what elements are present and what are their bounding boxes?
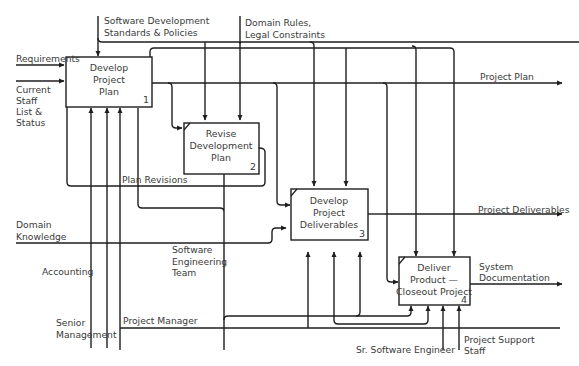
svg-text:Standards & Policies: Standards & Policies <box>104 27 198 38</box>
svg-text:Deliver: Deliver <box>417 262 451 273</box>
svg-text:Revise: Revise <box>206 128 237 139</box>
svg-text:4: 4 <box>461 294 467 305</box>
label-project-support-staff: Project Support Staff <box>464 334 535 356</box>
label-standards: Software Development Standards & Policie… <box>104 15 210 38</box>
output-project-plan-arrow <box>152 83 562 282</box>
label-current-staff: Current Staff List & Status <box>16 84 51 128</box>
svg-text:Software: Software <box>172 244 213 255</box>
svg-text:Knowledge: Knowledge <box>16 231 67 242</box>
svg-text:Senior: Senior <box>56 317 85 328</box>
svg-text:Plan: Plan <box>211 152 231 163</box>
svg-text:Domain: Domain <box>16 219 52 230</box>
svg-text:Develop: Develop <box>310 195 349 206</box>
label-project-manager: Project Manager <box>123 315 198 326</box>
svg-text:Deliverables: Deliverables <box>300 219 358 230</box>
label-system-documentation: System Documentation <box>479 261 550 283</box>
label-project-deliverables: Project Deliverables <box>478 204 570 215</box>
activity-box-2[interactable]: Revise Development Plan 2 <box>184 123 259 174</box>
label-plan-revisions: Plan Revisions <box>122 174 188 185</box>
svg-text:Documentation: Documentation <box>479 272 550 283</box>
activity-box-4[interactable]: Deliver Product — Closeout Project 4 <box>396 257 472 305</box>
label-accounting: Accounting <box>42 266 93 277</box>
activity-box-3[interactable]: Develop Project Deliverables 3 <box>291 189 368 240</box>
svg-text:Project: Project <box>313 207 345 218</box>
svg-text:Domain Rules,: Domain Rules, <box>245 17 311 28</box>
label-requirements: Requirements <box>16 53 80 64</box>
svg-text:Status: Status <box>16 117 45 128</box>
svg-text:Product —: Product — <box>410 274 458 285</box>
svg-text:Project: Project <box>93 74 125 85</box>
svg-text:List &: List & <box>16 106 42 117</box>
label-software-engineering-team: Software Engineering Team <box>171 244 227 278</box>
svg-text:3: 3 <box>359 228 365 239</box>
label-domain-rules: Domain Rules, Legal Constraints <box>245 17 325 40</box>
svg-text:System: System <box>479 261 513 272</box>
label-senior-management: Senior Management <box>56 317 117 340</box>
svg-text:Current: Current <box>16 84 51 95</box>
svg-text:Management: Management <box>56 329 117 340</box>
activity-box-1[interactable]: Develop Project Plan 1 <box>66 57 152 107</box>
svg-text:Staff: Staff <box>464 345 486 356</box>
svg-text:Engineering: Engineering <box>172 256 227 267</box>
svg-text:Plan: Plan <box>99 86 119 97</box>
svg-text:Legal Constraints: Legal Constraints <box>245 29 325 40</box>
label-sr-software-engineer: Sr. Software Engineer <box>356 344 455 355</box>
svg-text:2: 2 <box>250 161 256 172</box>
svg-text:Development: Development <box>189 140 252 151</box>
label-domain-knowledge: Domain Knowledge <box>16 219 67 242</box>
svg-text:Project Support: Project Support <box>464 334 535 345</box>
idef0-diagram: Develop Project Plan 1 Revise Developmen… <box>0 0 579 366</box>
svg-text:Staff: Staff <box>16 95 38 106</box>
label-project-plan: Project Plan <box>480 71 534 82</box>
svg-text:Develop: Develop <box>90 62 129 73</box>
svg-text:Team: Team <box>171 267 196 278</box>
svg-text:Software Development: Software Development <box>104 15 210 26</box>
svg-text:1: 1 <box>143 94 149 105</box>
